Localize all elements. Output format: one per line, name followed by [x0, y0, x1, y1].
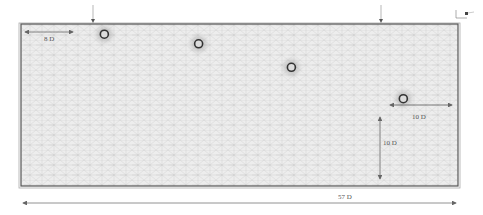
cylinder-2: [187, 32, 211, 56]
cylinder-body: [100, 30, 108, 38]
domain-length-label: 57 D: [338, 193, 352, 201]
top-marker-left: [91, 5, 95, 23]
top-marker-right: [379, 5, 383, 23]
domain-length-dimension: 57 D: [23, 193, 456, 203]
mesh-diagram: 8 D 10 D 10 D 57 D: [0, 0, 483, 215]
bottom-offset-label: 10 D: [383, 139, 397, 147]
inlet-offset-label: 8 D: [44, 35, 54, 43]
axis-indicator-icon: [456, 10, 474, 18]
cylinder-body: [287, 63, 295, 71]
outlet-offset-label: 10 D: [412, 113, 426, 121]
cylinder-1: [92, 22, 116, 46]
cylinder-4: [391, 87, 415, 111]
cylinder-body: [195, 40, 203, 48]
cylinder-3: [279, 55, 303, 79]
cylinder-body: [399, 95, 407, 103]
